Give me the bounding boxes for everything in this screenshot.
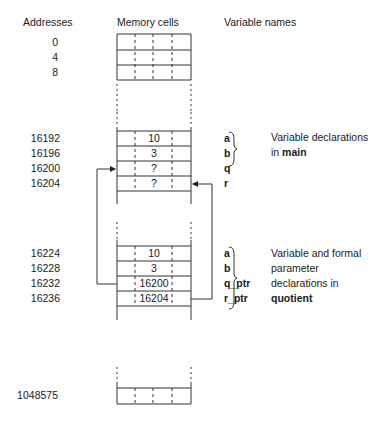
cell-value: ? bbox=[117, 177, 191, 189]
address-label: 16232 bbox=[0, 277, 60, 289]
cell-value: 3 bbox=[117, 262, 191, 274]
variable-name: r_ptr bbox=[224, 292, 248, 304]
pointer-arrow-r-ptr bbox=[191, 184, 212, 299]
address-label: 16236 bbox=[0, 292, 60, 304]
cell-value: 10 bbox=[117, 247, 191, 259]
memory-block-bottom bbox=[117, 367, 191, 404]
header-variable-names: Variable names bbox=[224, 16, 296, 28]
address-label: 0 bbox=[0, 36, 58, 48]
annotation-main: Variable declarations in main bbox=[271, 130, 368, 160]
memory-block-top bbox=[117, 34, 191, 112]
memory-diagram-lines bbox=[0, 0, 384, 428]
address-label: 16204 bbox=[0, 177, 60, 189]
variable-name: r bbox=[224, 177, 228, 189]
cell-value: 3 bbox=[117, 147, 191, 159]
annotation-line: in main bbox=[271, 145, 368, 160]
pointer-arrow-q-ptr bbox=[97, 169, 117, 284]
annotation-line: parameter bbox=[271, 261, 361, 276]
annotation-line: quotient bbox=[271, 291, 361, 306]
annotation-line: declarations in bbox=[271, 276, 361, 291]
address-label: 16228 bbox=[0, 262, 60, 274]
cell-value: 10 bbox=[117, 132, 191, 144]
address-label: 16192 bbox=[0, 132, 60, 144]
variable-name: q bbox=[224, 162, 230, 174]
cell-value: 16200 bbox=[117, 277, 191, 289]
address-label: 4 bbox=[0, 51, 58, 63]
address-label: 8 bbox=[0, 66, 58, 78]
variable-name: a bbox=[224, 132, 230, 144]
annotation-line: Variable and formal bbox=[271, 246, 361, 261]
cell-value: 16204 bbox=[117, 292, 191, 304]
annotation-quotient: Variable and formal parameter declaratio… bbox=[271, 246, 361, 306]
address-label: 16200 bbox=[0, 162, 60, 174]
address-label: 16224 bbox=[0, 247, 60, 259]
annotation-line: Variable declarations bbox=[271, 130, 368, 145]
address-label: 1048575 bbox=[0, 389, 58, 401]
variable-name: b bbox=[224, 147, 230, 159]
header-addresses: Addresses bbox=[23, 16, 73, 28]
header-memory-cells: Memory cells bbox=[117, 16, 179, 28]
cell-value: ? bbox=[117, 162, 191, 174]
variable-name: b bbox=[224, 262, 230, 274]
variable-name: a bbox=[224, 247, 230, 259]
address-label: 16196 bbox=[0, 147, 60, 159]
variable-name: q_ptr bbox=[224, 277, 250, 289]
